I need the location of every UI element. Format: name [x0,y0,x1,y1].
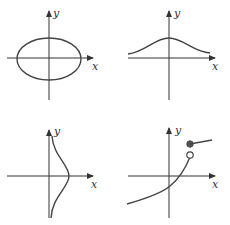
panel-sideways-curve: y x [7,125,98,218]
y-label: y [174,124,182,137]
panel-ellipse: y x [7,7,99,100]
x-label: x [92,60,99,73]
x-label: x [91,178,98,191]
y-label: y [53,125,61,138]
right-segment [190,140,212,144]
x-label: x [212,178,219,191]
y-label: y [173,7,181,20]
figure-canvas: y x y x y x y x [0,0,230,225]
panel-bell-curve: y x [128,7,219,100]
y-label: y [52,7,60,20]
x-label: x [212,60,219,73]
increasing-curve [127,157,190,204]
sideways-bell-curve [51,136,69,218]
panel-jump-discontinuity: y x [127,124,219,218]
open-circle-point [187,152,193,158]
